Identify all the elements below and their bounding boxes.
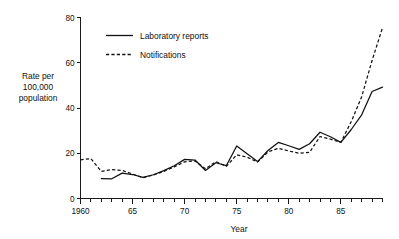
y-axis: 020406080 [65,14,80,204]
chart-figure: 020406080 19606570758085 Year Rate per 1… [0,0,399,239]
x-axis: 19606570758085 [71,199,382,216]
x-tick-label: 85 [336,207,346,216]
x-tick-label: 65 [128,207,138,216]
y-tick-group: 020406080 [65,14,80,204]
x-tick-label: 1960 [71,207,90,216]
legend-label-notifications: Notifications [140,50,186,60]
x-tick-group: 19606570758085 [71,199,382,216]
axis-title-x: Year [231,224,248,234]
line-chart: 020406080 19606570758085 Year Rate per 1… [0,0,399,239]
x-tick-label: 75 [232,207,242,216]
legend: Laboratory reports Notifications [106,31,208,60]
y-tick-label: 20 [65,149,75,158]
x-tick-label: 70 [180,207,190,216]
y-tick-label: 40 [65,104,75,113]
axis-title-y: Rate per 100,000 population [19,71,58,103]
y-tick-label: 60 [65,59,75,68]
y-axis-label-line-2: 100,000 [23,82,54,92]
y-axis-label-line-1: Rate per [22,71,54,81]
x-axis-label: Year [231,224,248,234]
legend-label-laboratory-reports: Laboratory reports [140,31,208,41]
series-line-laboratory-reports [101,87,382,179]
y-tick-label: 80 [65,14,75,23]
x-tick-label: 80 [284,207,294,216]
y-tick-label: 0 [70,195,75,204]
data-series-group [81,28,383,179]
y-axis-label-line-3: population [19,93,58,103]
